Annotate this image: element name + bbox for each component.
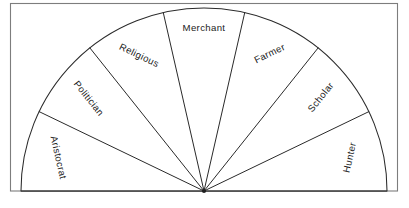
fan-diagram-svg: AristocratPoliticianReligiousMerchantFar… bbox=[0, 0, 409, 208]
semicircle-outline bbox=[21, 8, 387, 191]
fan-apex-point bbox=[202, 189, 206, 193]
fan-diagram-canvas: AristocratPoliticianReligiousMerchantFar… bbox=[0, 0, 409, 208]
sector-label-merchant: Merchant bbox=[183, 22, 226, 33]
